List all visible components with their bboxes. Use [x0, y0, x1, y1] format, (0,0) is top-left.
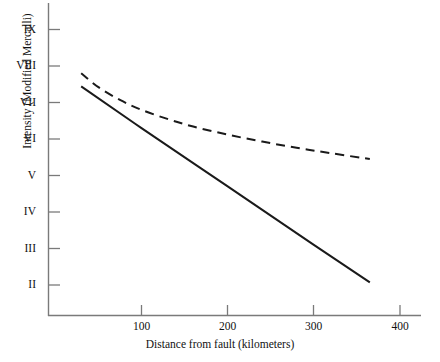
x-tick-label-200: 200 [219, 321, 236, 333]
y-tick-label-3: III [0, 243, 36, 255]
data-series-layer [81, 73, 370, 282]
plot-area [0, 0, 440, 362]
y-axis-title: Intensity (Modified Mercalli) [21, 0, 33, 196]
x-tick-label-300: 300 [305, 321, 322, 333]
lower-attenuation-curve [81, 86, 370, 282]
x-tick-label-400: 400 [391, 321, 408, 333]
x-tick-label-100: 100 [133, 321, 150, 333]
y-tick-label-4: IV [0, 206, 36, 218]
y-tick-label-2: II [0, 279, 36, 291]
x-tick-marks [142, 305, 401, 315]
x-axis-title: Distance from fault (kilometers) [0, 338, 440, 350]
y-tick-marks [49, 30, 60, 286]
attenuation-chart: IX VIII VII VI V IV III II 100 200 300 4… [0, 0, 440, 362]
